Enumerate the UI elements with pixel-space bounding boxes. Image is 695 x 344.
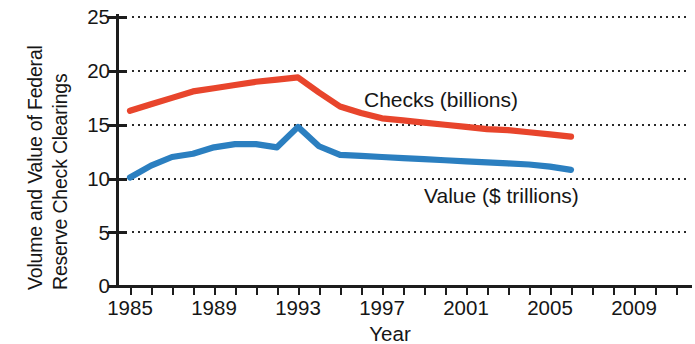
series-annotation-checks: Checks (billions) <box>364 89 518 111</box>
x-axis-title: Year <box>350 322 430 344</box>
series-annotation-value: Value ($ trillions) <box>424 185 579 207</box>
series-plot-area <box>0 0 695 344</box>
check-clearings-line-chart: Volume and Value of Federal Reserve Chec… <box>0 0 695 344</box>
series-line-value <box>130 127 571 178</box>
